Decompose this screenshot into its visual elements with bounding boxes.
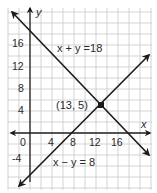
y-tick-8: 8 — [18, 82, 24, 94]
x-axis-label: x — [140, 118, 147, 130]
y-tick-neg4: -4 — [12, 152, 21, 164]
origin-label: 0 — [20, 136, 26, 148]
y-tick-12: 12 — [12, 60, 24, 72]
x-tick-4: 4 — [48, 136, 54, 148]
y-tick-16: 16 — [12, 37, 24, 49]
x-tick-12: 12 — [89, 136, 101, 148]
coordinate-graph: y x 16 12 8 4 0 -4 4 8 12 16 x + y =18 x… — [0, 0, 157, 193]
x-tick-8: 8 — [70, 136, 76, 148]
y-tick-4: 4 — [18, 104, 24, 116]
line1-label: x + y =18 — [57, 42, 102, 54]
line2-label: x − y = 8 — [53, 156, 95, 168]
intersection-label: (13, 5) — [56, 99, 88, 111]
x-tick-16: 16 — [111, 136, 123, 148]
intersection-point — [98, 102, 104, 108]
